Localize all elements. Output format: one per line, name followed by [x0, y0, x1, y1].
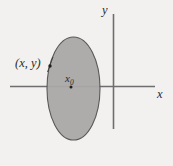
- center-point-label-subscript: 0: [70, 78, 74, 87]
- boundary-point-label: (x, y): [15, 57, 41, 70]
- x-axis-label: x: [157, 88, 163, 101]
- y-axis-label: y: [102, 4, 108, 17]
- ellipse-coordinate-figure: [0, 0, 173, 166]
- boundary-point-marker: [48, 64, 51, 67]
- shaded-ellipse: [47, 37, 100, 140]
- center-point-label: x0: [65, 73, 74, 87]
